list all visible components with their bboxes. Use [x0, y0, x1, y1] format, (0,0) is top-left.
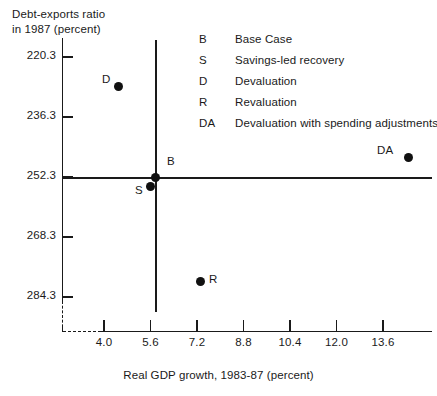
x-axis-tick — [336, 320, 337, 331]
x-axis-tick-label: 7.2 — [177, 336, 217, 348]
y-axis-title: Debt-exports ratio in 1987 (percent) — [12, 7, 105, 37]
horizontal-reference-line — [62, 177, 432, 179]
data-point-s[interactable] — [146, 182, 155, 191]
x-axis-tick — [196, 320, 197, 331]
legend-description: Savings-led recovery — [235, 54, 344, 66]
x-axis-tick-label: 8.8 — [224, 336, 264, 348]
y-axis-title-line-1: Debt-exports ratio — [12, 7, 105, 22]
x-axis-tick — [382, 320, 383, 331]
legend-key: D — [199, 75, 207, 87]
legend-key: S — [199, 54, 207, 66]
data-point-label-d: D — [102, 73, 110, 85]
y-axis-tick — [62, 56, 73, 57]
y-axis-title-line-2: in 1987 (percent) — [12, 22, 105, 37]
x-axis-tick-label: 5.6 — [131, 336, 171, 348]
data-point-b[interactable] — [151, 173, 160, 182]
legend-description: Devaluation with spending adjustments — [235, 117, 437, 129]
x-axis-tick-label: 12.0 — [317, 336, 357, 348]
x-axis-title: Real GDP growth, 1983-87 (percent) — [0, 369, 437, 381]
y-axis-spine — [62, 38, 63, 301]
x-axis-tick — [243, 320, 244, 331]
y-axis-tick-label: 252.3 — [0, 169, 56, 181]
y-axis-tick-label: 236.3 — [0, 109, 56, 121]
x-axis-tick — [103, 320, 104, 331]
y-axis-tick-label: 284.3 — [0, 289, 56, 301]
x-axis-spine — [100, 331, 432, 332]
y-axis-tick-label: 220.3 — [0, 49, 56, 61]
data-point-label-r: R — [209, 273, 217, 285]
legend-description: Revaluation — [235, 96, 297, 108]
legend-description: Devaluation — [235, 75, 297, 87]
legend-key: DA — [199, 117, 215, 129]
data-point-da[interactable] — [404, 153, 413, 162]
y-axis-tick-label: 268.3 — [0, 229, 56, 241]
data-point-label-b: B — [167, 155, 175, 167]
x-axis-break-dashed — [63, 331, 101, 332]
x-axis-tick-label: 13.6 — [363, 336, 403, 348]
legend-key: B — [199, 33, 207, 45]
x-axis-tick-label: 10.4 — [270, 336, 310, 348]
y-axis-tick — [62, 236, 73, 237]
x-axis-tick — [150, 320, 151, 331]
data-point-label-da: DA — [377, 144, 393, 156]
x-axis-tick-label: 4.0 — [84, 336, 124, 348]
data-point-d[interactable] — [114, 82, 123, 91]
legend-description: Base Case — [235, 33, 292, 45]
scatter-chart: Debt-exports ratio in 1987 (percent) 220… — [0, 0, 437, 396]
y-axis-tick — [62, 296, 73, 297]
y-axis-tick — [62, 116, 73, 117]
data-point-r[interactable] — [196, 277, 205, 286]
data-point-label-s: S — [135, 184, 143, 196]
x-axis-tick — [289, 320, 290, 331]
legend-key: R — [199, 96, 207, 108]
